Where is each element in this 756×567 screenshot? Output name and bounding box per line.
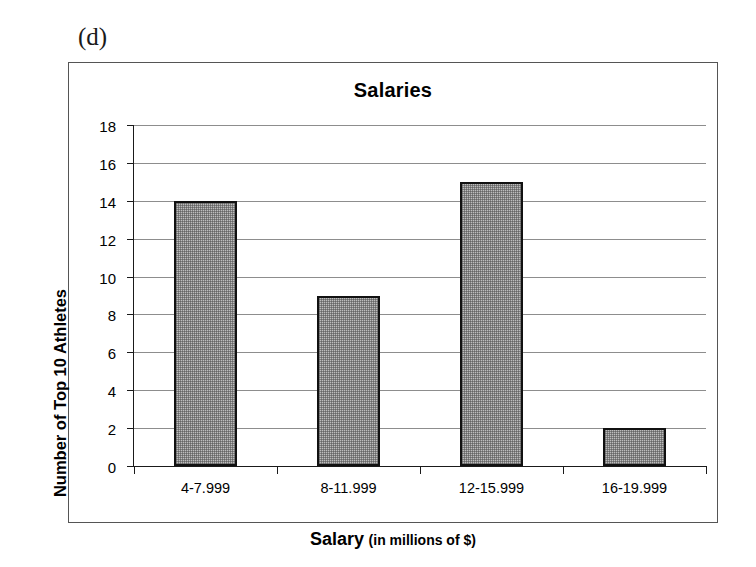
y-tick-label: 0 [108,459,116,476]
y-tick: 8 [127,314,134,315]
chart-frame: Salaries Number of Top 10 Athletes 02468… [68,62,718,523]
y-tick-label: 12 [99,231,116,248]
y-axis-spine [133,125,134,466]
y-tick-label: 2 [108,421,116,438]
x-category-label: 12-15.999 [459,480,524,496]
y-tick-label: 14 [99,193,116,210]
gridline [134,163,706,164]
y-tick: 16 [127,163,134,164]
x-category-label: 4-7.999 [181,480,230,496]
bar[interactable] [460,182,523,466]
panel-label: (d) [78,24,107,49]
x-axis-title-main: Salary [310,529,364,549]
x-tick [563,466,564,474]
x-axis-title-sub: (in millions of $) [369,532,476,548]
x-tick [134,466,135,474]
x-tick [706,466,707,474]
y-tick: 2 [127,428,134,429]
x-tick [277,466,278,474]
x-tick [420,466,421,474]
bar[interactable] [317,296,380,467]
x-category-label: 8-11.999 [320,480,376,496]
y-tick-label: 4 [108,383,116,400]
x-category-label: 16-19.999 [602,480,667,496]
y-tick: 0 [127,466,134,467]
y-tick: 10 [127,277,134,278]
bar[interactable] [174,201,237,466]
y-tick: 12 [127,239,134,240]
gridline [134,125,706,126]
y-tick-label: 10 [99,269,116,286]
y-tick-label: 8 [108,307,116,324]
y-tick-label: 16 [99,155,116,172]
y-tick: 14 [127,201,134,202]
bar[interactable] [603,428,666,466]
y-tick-label: 6 [108,345,116,362]
x-axis-title: Salary (in millions of $) [68,529,718,550]
y-axis-title: Number of Top 10 Athletes [51,253,70,533]
y-tick-label: 18 [99,118,116,135]
chart-title: Salaries [69,79,717,102]
plot-area: 024681012141618 4-7.9998-11.99912-15.999… [134,125,706,466]
y-tick: 6 [127,352,134,353]
y-tick: 18 [127,125,134,126]
y-tick: 4 [127,390,134,391]
